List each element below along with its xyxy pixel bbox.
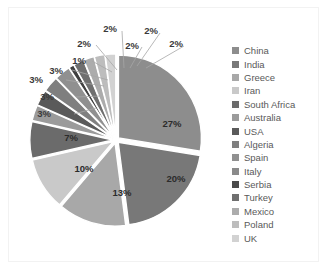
legend-swatch-icon [232,114,239,121]
legend-item-label: Iran [244,85,260,96]
slice-percentage-label: 2% [144,25,158,36]
legend-item[interactable]: Poland [232,218,324,231]
legend-item-label: Serbia [244,179,271,190]
legend-item-label: Algeria [244,139,274,150]
legend-swatch-icon [232,61,239,68]
legend-item[interactable]: Serbia [232,178,324,191]
legend-item[interactable]: Australia [232,111,324,124]
slice-percentage-label: 2% [169,38,183,49]
legend-item-label: India [244,59,265,70]
slice-percentage-label: 3% [49,65,63,76]
legend-item-label: Turkey [244,192,273,203]
slice-percentage-label: 3% [29,74,43,85]
legend-item[interactable]: China [232,44,324,57]
legend-item[interactable]: UK [232,231,324,244]
pie-slice[interactable] [118,55,201,151]
legend-swatch-icon [232,47,239,54]
slice-percentage-label: 13% [112,187,131,198]
leader-line [146,46,184,68]
slice-percentage-label: 2% [125,40,139,51]
slice-percentage-label: 20% [166,173,185,184]
legend-item[interactable]: South Africa [232,98,324,111]
pie-svg [0,0,228,271]
legend-item-label: Australia [244,112,281,123]
legend-swatch-icon [232,168,239,175]
slice-percentage-label: 1% [72,55,86,66]
legend-swatch-icon [232,101,239,108]
slice-percentage-label: 2% [103,23,117,34]
legend-swatch-icon [232,208,239,215]
slice-percentage-label: 27% [162,118,181,129]
slice-percentage-label: 3% [40,91,54,102]
slice-percentage-label: 10% [74,163,93,174]
legend-item-label: USA [244,126,264,137]
legend-item[interactable]: USA [232,124,324,137]
legend-item[interactable]: Algeria [232,138,324,151]
legend-item-label: South Africa [244,99,295,110]
legend-swatch-icon [232,154,239,161]
legend-item[interactable]: India [232,57,324,70]
legend-item[interactable]: Iran [232,84,324,97]
slice-percentage-label: 2% [77,38,91,49]
legend-item[interactable]: Greece [232,71,324,84]
legend-item-label: Mexico [244,206,274,217]
legend-item[interactable]: Turkey [232,191,324,204]
legend-item-label: UK [244,233,257,244]
legend-item-label: China [244,45,269,56]
legend-item-label: Italy [244,166,261,177]
legend-swatch-icon [232,141,239,148]
pie-area: 27%20%13%10%7%3%3%3%3%1%2%2%2%2%2% [0,0,228,271]
legend-swatch-icon [232,128,239,135]
legend-item-label: Greece [244,72,275,83]
legend-item-label: Spain [244,152,268,163]
legend-swatch-icon [232,181,239,188]
legend-swatch-icon [232,194,239,201]
legend: ChinaIndiaGreeceIranSouth AfricaAustrali… [232,44,324,245]
slice-percentage-label: 7% [64,132,78,143]
pie-slice[interactable] [118,142,200,224]
legend-swatch-icon [232,235,239,242]
legend-item[interactable]: Spain [232,151,324,164]
legend-swatch-icon [232,221,239,228]
slice-percentage-label: 3% [37,108,51,119]
legend-item[interactable]: Mexico [232,205,324,218]
pie-chart-figure: 27%20%13%10%7%3%3%3%3%1%2%2%2%2%2% China… [0,0,328,271]
legend-item-label: Poland [244,219,274,230]
legend-swatch-icon [232,74,239,81]
legend-item[interactable]: Italy [232,165,324,178]
legend-swatch-icon [232,87,239,94]
